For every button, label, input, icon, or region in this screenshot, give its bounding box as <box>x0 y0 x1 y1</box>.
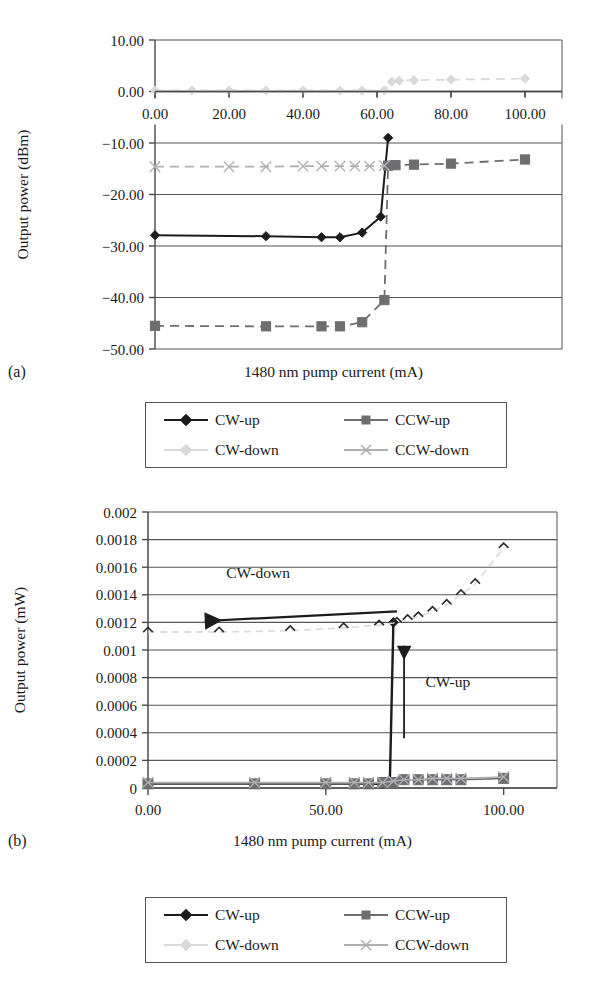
x-axis-title: 1480 nm pump current (mA) <box>244 363 423 380</box>
panel-a-canvas: 10.000.00−10.00−20.00−30.00−40.00−50.000… <box>0 0 611 380</box>
series-ccw-up <box>143 773 509 789</box>
legend-label: CW-down <box>215 936 279 954</box>
data-point-marker <box>150 321 159 330</box>
data-point-marker <box>261 232 270 241</box>
y-tick-label: 0.0006 <box>96 698 138 714</box>
legend-label: CW-up <box>215 411 260 429</box>
x-tick-label: 80.00 <box>434 106 468 122</box>
data-point-marker <box>384 133 393 142</box>
legend-diamond-icon <box>180 939 193 952</box>
legend-key-ccw-down-icon <box>344 938 388 952</box>
grid-lines-b <box>148 512 557 788</box>
data-point-marker <box>391 161 400 170</box>
data-point-marker <box>520 74 529 83</box>
data-point-marker <box>285 626 295 631</box>
data-point-marker <box>349 779 359 789</box>
legend-square-icon <box>362 911 371 920</box>
legend-entry-cw-up: CW-up <box>146 411 326 429</box>
x-tick-label: 0.00 <box>142 106 168 122</box>
legend-x-icon <box>360 444 372 456</box>
legend-key-ccw-down-icon <box>344 443 388 457</box>
y-tick-label: −40.00 <box>102 290 144 306</box>
axes-b <box>142 512 557 795</box>
cw-down-annotation-label: CW-down <box>226 564 290 581</box>
x-tick-label: 40.00 <box>286 106 320 122</box>
data-point-marker <box>403 615 413 620</box>
legend-key-ccw-up-icon <box>344 908 388 922</box>
y-tick-label: −20.00 <box>102 187 144 203</box>
data-point-marker <box>395 76 404 85</box>
data-point-marker <box>335 86 344 95</box>
y-tick-label: 0.0002 <box>96 753 137 769</box>
labels-a: 10.000.00−10.00−20.00−30.00−40.00−50.000… <box>8 33 546 381</box>
series-line <box>155 138 388 237</box>
series-cw-up <box>150 133 392 242</box>
y-axis-title: Output power (mW) <box>11 587 29 714</box>
data-point-marker <box>428 775 438 785</box>
data-point-marker <box>150 231 159 240</box>
legend-key-cw-up-icon <box>164 413 208 427</box>
series-line <box>155 166 384 167</box>
legend-panel-a: CW-upCCW-upCW-downCCW-down <box>145 402 507 468</box>
x-tick-label: 100.00 <box>504 106 545 122</box>
legend-label: CW-down <box>215 441 279 459</box>
x-tick-label: 60.00 <box>360 106 394 122</box>
legend-key-ccw-up-icon <box>344 413 388 427</box>
legend-label: CCW-down <box>395 441 469 459</box>
data-point-marker <box>335 322 344 331</box>
panel-b-canvas: CW-downCW-up0.0020.00180.00160.00140.001… <box>0 490 611 880</box>
data-point-marker <box>409 160 418 169</box>
data-point-marker <box>446 159 455 168</box>
y-tick-label: 0.0012 <box>96 615 137 631</box>
data-point-marker <box>428 607 438 612</box>
data-point-marker <box>358 86 367 95</box>
y-tick-label: 0.0008 <box>96 670 137 686</box>
data-point-marker <box>380 295 389 304</box>
legend-label: CCW-up <box>395 906 450 924</box>
data-point-marker <box>456 590 466 595</box>
cw-up-annotation-label: CW-up <box>425 673 470 690</box>
data-point-marker <box>409 76 418 85</box>
legend-x-icon <box>360 939 372 951</box>
data-point-marker <box>364 779 374 789</box>
y-tick-label: 10.00 <box>110 33 144 49</box>
data-point-marker <box>261 322 270 331</box>
series-line <box>148 622 393 783</box>
data-point-marker <box>321 779 331 789</box>
legend-label: CW-up <box>215 906 260 924</box>
chart-panel-b: CW-downCW-up0.0020.00180.00160.00140.001… <box>0 490 611 880</box>
series-line <box>155 159 525 326</box>
y-tick-label: 0.0016 <box>96 560 138 576</box>
y-tick-label: −50.00 <box>102 342 144 358</box>
data-point-marker <box>358 318 367 327</box>
annotations-b: CW-downCW-up <box>205 564 471 738</box>
chart-panel-a: 10.000.00−10.00−20.00−30.00−40.00−50.000… <box>0 0 611 380</box>
legend-diamond-icon <box>180 444 193 457</box>
y-tick-label: 0 <box>130 781 138 797</box>
y-tick-label: 0.0014 <box>96 587 138 603</box>
series-ccw-down <box>150 160 390 171</box>
x-tick-label: 50.00 <box>309 802 343 818</box>
legend-panel-b: CW-upCCW-upCW-downCCW-down <box>145 897 507 963</box>
legend-entry-ccw-up: CCW-up <box>326 411 506 429</box>
data-series-b <box>143 543 509 789</box>
cw-down-annotation-arrow <box>205 611 397 621</box>
legend-entry-cw-down: CW-down <box>146 936 326 954</box>
legend-key-cw-down-icon <box>164 938 208 952</box>
data-point-marker <box>388 777 398 787</box>
data-point-marker <box>143 779 153 789</box>
y-tick-label: 0.001 <box>103 643 137 659</box>
legend-diamond-icon <box>180 909 193 922</box>
data-point-marker <box>456 775 466 785</box>
series-cw-down <box>143 543 508 632</box>
legend-key-cw-down-icon <box>164 443 208 457</box>
y-tick-label: −10.00 <box>102 136 144 152</box>
legend-entry-cw-down: CW-down <box>146 441 326 459</box>
data-point-marker <box>442 775 452 785</box>
y-tick-label: 0.002 <box>103 505 137 521</box>
legend-entry-cw-up: CW-up <box>146 906 326 924</box>
series-line <box>148 548 504 632</box>
data-point-marker <box>250 779 260 789</box>
data-point-marker <box>520 155 529 164</box>
data-point-marker <box>317 322 326 331</box>
